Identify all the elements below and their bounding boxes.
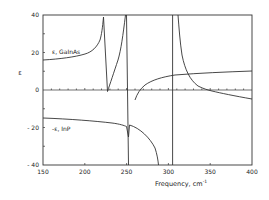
svg-text:20: 20	[31, 49, 39, 56]
label-neg-epsilon-inp: -ε, InP	[52, 125, 71, 132]
label-epsilon-gainas: ε, GaInAs	[52, 48, 80, 55]
series-neg-epsilon-inp	[43, 71, 252, 165]
svg-text:300: 300	[163, 168, 175, 175]
svg-text:- 20: - 20	[27, 124, 39, 131]
y-axis-title: ε	[18, 69, 22, 77]
svg-text:400: 400	[246, 168, 258, 175]
x-axis-title: Frequency, cm-1	[155, 179, 207, 188]
svg-text:- 40: - 40	[27, 161, 39, 168]
y-tick-labels: 40 20 0 - 20 - 40	[27, 11, 39, 168]
svg-text:150: 150	[37, 168, 49, 175]
dielectric-function-chart: ε, GaInAs -ε, InP 40 20 0 - 20 - 40 ε 15…	[0, 0, 269, 200]
svg-text:250: 250	[121, 168, 133, 175]
svg-text:350: 350	[204, 168, 216, 175]
x-tick-labels: 150 200 250 300 350 400	[37, 168, 258, 175]
svg-text:40: 40	[31, 11, 39, 18]
svg-text:0: 0	[35, 86, 39, 93]
svg-text:200: 200	[79, 168, 91, 175]
